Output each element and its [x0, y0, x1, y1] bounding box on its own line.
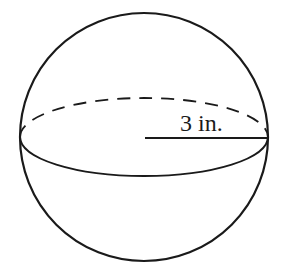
- equator-back-dashed: [20, 98, 268, 137]
- sphere-diagram: 3 in.: [0, 0, 283, 271]
- sphere-outline: [20, 13, 268, 261]
- equator-front-solid: [20, 137, 268, 176]
- radius-label: 3 in.: [180, 110, 223, 136]
